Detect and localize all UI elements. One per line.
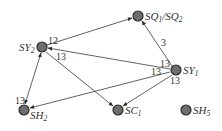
node-sc1[interactable]: SC1 (113, 104, 142, 118)
node-sq1-sq2[interactable]: SQ1/SQ2 (133, 10, 183, 24)
edge-label-sy2-sc1: 13 (56, 51, 66, 62)
node-sy1-circle (171, 65, 181, 75)
node-sq-label: SQ1/SQ2 (145, 10, 183, 24)
edge-sy1-sc1 (123, 75, 172, 106)
graph-canvas: 12 3 13 13 13 13 13 SY2 SQ1/SQ2 SY1 SH2 … (0, 0, 222, 131)
edge-sh2-sy2 (25, 53, 41, 104)
node-sq-circle (133, 11, 143, 21)
edge-label-sy1-sc1: 13 (170, 75, 180, 86)
node-sc1-circle (113, 105, 123, 115)
node-sh2-circle (19, 105, 29, 115)
edges (25, 18, 172, 108)
node-sh5[interactable]: SH5 (181, 104, 210, 118)
node-sh2[interactable]: SH2 (19, 105, 47, 123)
node-sh5-circle (181, 105, 191, 115)
node-sh2-label: SH2 (30, 109, 47, 123)
node-sc1-label: SC1 (125, 104, 142, 118)
edge-label-sy1-sh2: 13 (151, 66, 161, 77)
node-sy2-circle (37, 42, 47, 52)
edge-label-sh2-sy2: 13 (15, 95, 25, 106)
node-sy2[interactable]: SY2 (19, 41, 47, 55)
edge-sy2-sq (47, 18, 132, 45)
edge-label-sy1-sy2: 13 (160, 58, 170, 69)
edge-label-sy2-sq: 12 (48, 35, 58, 46)
node-sy1-label: SY1 (183, 64, 198, 78)
edge-label-sy1-sq: 3 (161, 37, 166, 48)
node-sy2-label: SY2 (19, 41, 35, 55)
node-sh5-label: SH5 (193, 104, 210, 118)
